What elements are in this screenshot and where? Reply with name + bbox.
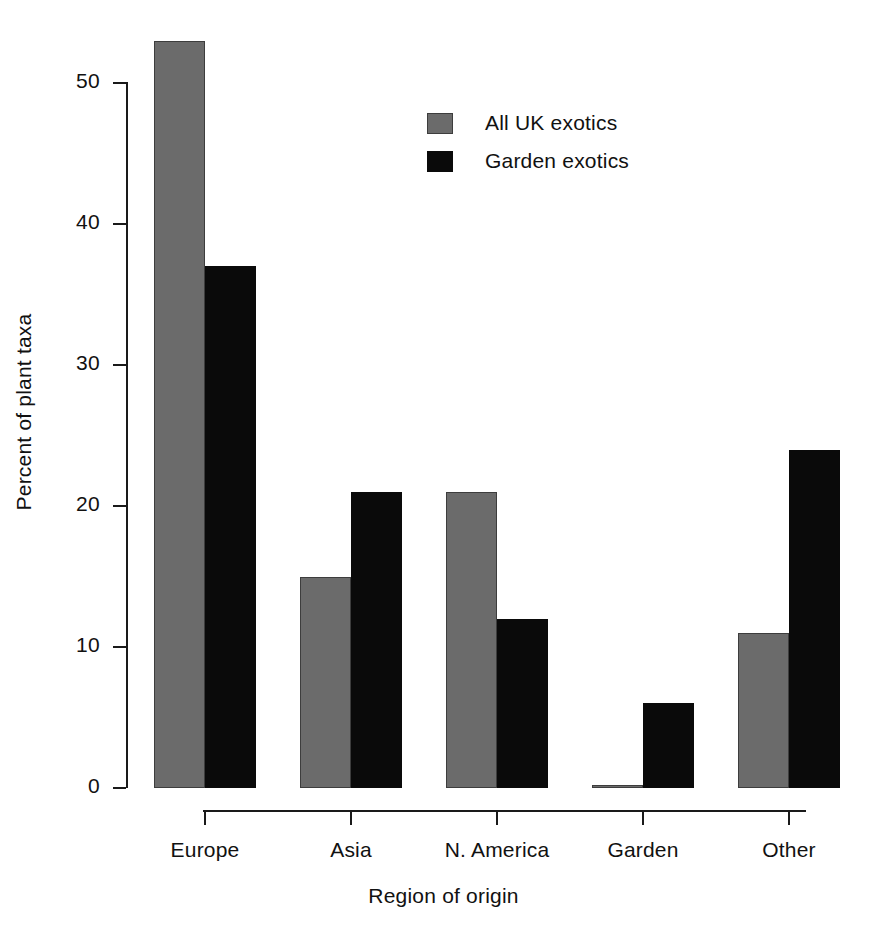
bar-europe-garden-exotics xyxy=(205,266,256,788)
x-axis-tick xyxy=(496,810,498,825)
legend-swatch-icon xyxy=(427,151,453,172)
x-axis-tick-label: Europe xyxy=(171,838,240,862)
bar-garden-all-uk-exotics xyxy=(592,785,643,788)
bar-asia-garden-exotics xyxy=(351,492,402,788)
x-axis-tick xyxy=(788,810,790,825)
chart-legend: All UK exoticsGarden exotics xyxy=(427,104,629,180)
x-axis-line xyxy=(203,810,806,812)
x-axis-tick-label: Garden xyxy=(607,838,678,862)
legend-label: Garden exotics xyxy=(485,149,629,173)
bar-other-garden-exotics xyxy=(789,450,840,788)
bars-layer xyxy=(0,82,887,788)
bar-asia-all-uk-exotics xyxy=(300,577,351,789)
x-axis-tick-label: Other xyxy=(762,838,816,862)
bar-other-all-uk-exotics xyxy=(738,633,789,788)
bar-n-america-garden-exotics xyxy=(497,619,548,788)
bar-chart-figure: 01020304050 EuropeAsiaN. AmericaGardenOt… xyxy=(0,0,887,929)
bar-n-america-all-uk-exotics xyxy=(446,492,497,788)
legend-item: Garden exotics xyxy=(427,142,629,180)
x-axis-tick-label: Asia xyxy=(330,838,372,862)
bar-europe-all-uk-exotics xyxy=(154,41,205,788)
x-axis-title: Region of origin xyxy=(0,884,887,908)
x-axis-tick xyxy=(204,810,206,825)
x-axis-tick xyxy=(642,810,644,825)
y-axis-title: Percent of plant taxa xyxy=(12,282,36,542)
x-axis-tick xyxy=(350,810,352,825)
x-axis-tick-label: N. America xyxy=(445,838,550,862)
legend-item: All UK exotics xyxy=(427,104,629,142)
legend-swatch-icon xyxy=(427,113,453,134)
legend-label: All UK exotics xyxy=(485,111,617,135)
bar-garden-garden-exotics xyxy=(643,703,694,788)
